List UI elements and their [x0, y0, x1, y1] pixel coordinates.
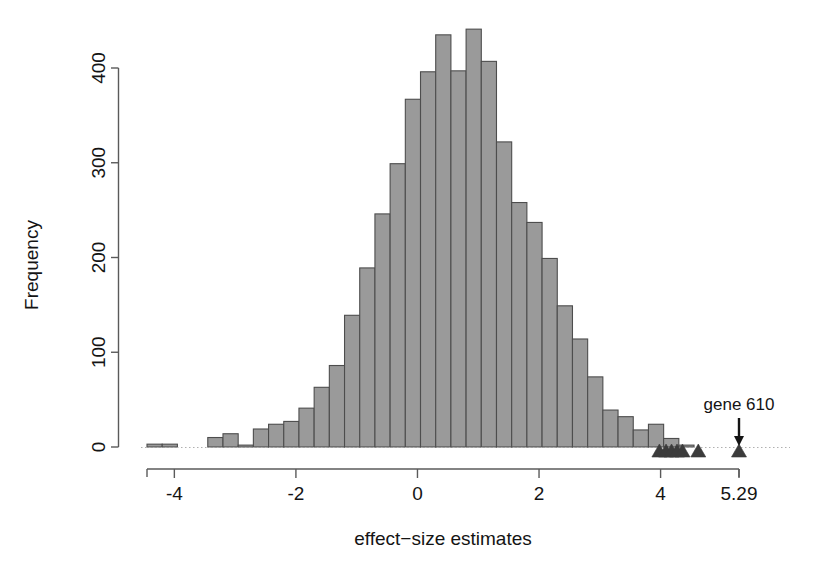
histogram-bar	[588, 377, 603, 447]
y-axis-tick-label: 0	[88, 442, 109, 453]
histogram-bar	[633, 430, 648, 447]
y-axis-tick-label: 200	[88, 242, 109, 274]
histogram-bar	[360, 268, 375, 447]
x-axis-label: effect−size estimates	[354, 528, 532, 549]
histogram-bar	[436, 35, 451, 447]
histogram-bar	[238, 445, 253, 447]
histogram-bar	[421, 72, 436, 447]
x-axis-tick-label: -2	[287, 483, 304, 504]
x-axis-tick-label: 5.29	[721, 483, 758, 504]
histogram-bar	[329, 366, 344, 447]
histogram-bar	[466, 29, 481, 447]
histogram-bar	[405, 99, 420, 447]
histogram-bar	[269, 424, 284, 447]
x-axis-tick-label: 2	[534, 483, 545, 504]
histogram-bar	[223, 434, 238, 447]
histogram-bar	[147, 444, 162, 447]
histogram-bar	[572, 339, 587, 447]
histogram-bar	[314, 387, 329, 447]
histogram-bar	[527, 222, 542, 447]
histogram-bar	[542, 258, 557, 447]
histogram-bar	[618, 417, 633, 447]
y-axis-tick-label: 400	[88, 52, 109, 84]
histogram-bar	[375, 214, 390, 447]
y-axis-tick-label: 300	[88, 147, 109, 179]
histogram-bar	[557, 306, 572, 447]
x-axis-tick-label: 0	[412, 483, 423, 504]
x-axis-tick-label: 4	[655, 483, 666, 504]
histogram-bar	[162, 444, 177, 447]
histogram-bar	[345, 315, 360, 447]
x-axis-tick-label: -4	[166, 483, 183, 504]
gene-annotation: gene 610	[704, 395, 775, 446]
histogram-bar	[512, 203, 527, 447]
histogram-bars	[147, 29, 694, 447]
y-axis: 0100200300400	[88, 52, 118, 452]
histogram-bar	[208, 438, 223, 447]
histogram-bar	[390, 164, 405, 447]
histogram-bar	[451, 71, 466, 447]
histogram-bar	[284, 421, 299, 447]
histogram-bar	[299, 408, 314, 447]
gene-label-text: gene 610	[704, 395, 775, 414]
histogram-bar	[253, 429, 268, 447]
histogram-bar	[648, 424, 663, 447]
y-axis-tick-label: 100	[88, 336, 109, 368]
histogram-bar	[481, 61, 496, 447]
x-axis: -4-20245.29	[147, 469, 757, 504]
histogram-figure: 0100200300400 -4-20245.29 gene 610 Frequ…	[0, 0, 814, 570]
plot-canvas: 0100200300400 -4-20245.29 gene 610 Frequ…	[0, 0, 814, 570]
histogram-bar	[496, 142, 511, 447]
down-arrow-head-icon	[734, 436, 744, 446]
rug-triangle-markers	[652, 444, 747, 457]
histogram-bar	[603, 410, 618, 447]
y-axis-label: Frequency	[21, 220, 42, 310]
